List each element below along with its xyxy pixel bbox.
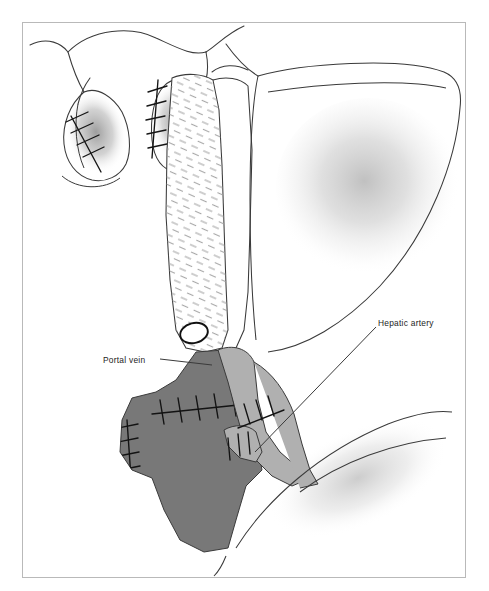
upper-contours — [30, 26, 258, 104]
portal-vein-label: Portal vein — [103, 355, 145, 365]
medical-illustration-figure: Portal vein Hepatic artery — [0, 0, 489, 591]
hepatic-artery-label: Hepatic artery — [378, 318, 434, 328]
left-lobe-shadow — [58, 85, 134, 180]
liver-shadow — [276, 98, 460, 278]
central-duct-segment — [160, 70, 252, 360]
illustration-canvas — [0, 0, 489, 591]
